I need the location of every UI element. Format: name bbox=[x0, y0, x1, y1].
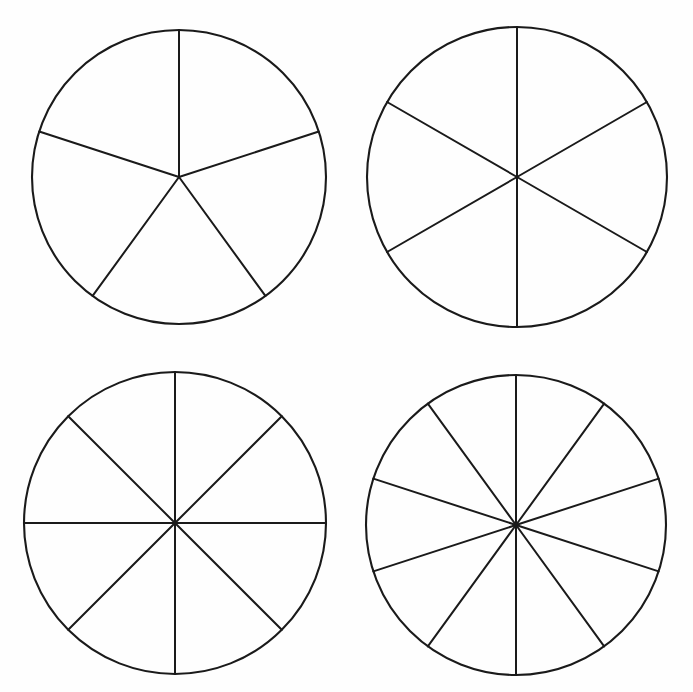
sector-divider-1-5 bbox=[39, 132, 179, 177]
sector-divider-2-5 bbox=[387, 177, 517, 252]
sector-divider-4-10 bbox=[428, 404, 516, 525]
sector-divider-1-4 bbox=[93, 177, 179, 296]
sector-divider-4-4 bbox=[516, 525, 659, 571]
sector-divider-4-2 bbox=[516, 404, 604, 525]
pie-circle-top-left bbox=[32, 30, 326, 324]
pie-circle-bottom-right bbox=[366, 375, 666, 675]
sector-divider-2-3 bbox=[517, 177, 647, 252]
fraction-circles-worksheet bbox=[0, 0, 693, 692]
pie-circle-top-right bbox=[367, 27, 667, 327]
sector-divider-4-7 bbox=[428, 525, 516, 646]
sector-divider-1-3 bbox=[179, 177, 265, 296]
sector-divider-2-2 bbox=[517, 102, 647, 177]
sector-divider-3-6 bbox=[68, 523, 175, 630]
sector-divider-4-5 bbox=[516, 525, 604, 646]
sector-divider-1-2 bbox=[179, 132, 319, 177]
sector-divider-3-4 bbox=[175, 523, 282, 630]
sector-divider-4-9 bbox=[373, 479, 516, 525]
sector-divider-2-6 bbox=[387, 102, 517, 177]
fraction-circles-canvas bbox=[0, 0, 693, 692]
sector-divider-3-2 bbox=[175, 416, 282, 523]
sector-divider-4-8 bbox=[373, 525, 516, 571]
pie-circle-bottom-left bbox=[24, 372, 326, 674]
sector-divider-3-8 bbox=[68, 416, 175, 523]
sector-divider-4-3 bbox=[516, 479, 659, 525]
